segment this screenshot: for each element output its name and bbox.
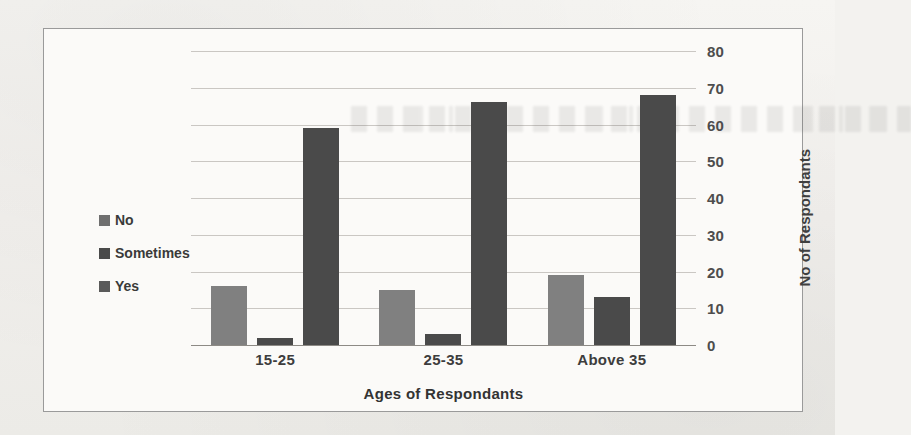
bar-yes-above-35[interactable]: [640, 95, 676, 345]
bar-sometimes-above-35[interactable]: [594, 297, 630, 345]
legend-swatch-yes: [99, 281, 110, 292]
legend-label-yes: Yes: [115, 278, 139, 294]
legend-item-no[interactable]: No: [99, 212, 190, 228]
legend-item-sometimes[interactable]: Sometimes: [99, 245, 190, 261]
axis-baseline: [191, 345, 696, 346]
bar-group: [359, 51, 527, 345]
x-axis-title: Ages of Respondants: [191, 385, 696, 402]
legend-label-sometimes: Sometimes: [115, 245, 190, 261]
y-tick-label: 80: [707, 43, 747, 60]
y-tick-label: 70: [707, 79, 747, 96]
y-axis-title: No of Respondants: [796, 149, 813, 287]
y-tick-label: 0: [707, 337, 747, 354]
x-category-label: Above 35: [532, 351, 692, 368]
legend-item-yes[interactable]: Yes: [99, 278, 190, 294]
bar-yes-15-25[interactable]: [303, 128, 339, 345]
bar-no-above-35[interactable]: [548, 275, 584, 345]
x-category-label: 25-35: [364, 351, 524, 368]
chart-legend: No Sometimes Yes: [99, 212, 190, 311]
y-tick-label: 60: [707, 116, 747, 133]
y-tick-label: 20: [707, 263, 747, 280]
bar-sometimes-15-25[interactable]: [257, 338, 293, 345]
bar-no-15-25[interactable]: [211, 286, 247, 345]
legend-swatch-no: [99, 215, 110, 226]
x-category-label: 15-25: [195, 351, 355, 368]
plot-area: 01020304050607080 15-2525-35Above 35 Age…: [191, 51, 696, 345]
bar-group: [191, 51, 359, 345]
legend-swatch-sometimes: [99, 248, 110, 259]
bar-yes-25-35[interactable]: [471, 102, 507, 345]
y-tick-label: 10: [707, 300, 747, 317]
chart-frame: No Sometimes Yes 01020304050607080 15-25…: [43, 28, 803, 412]
y-tick-label: 50: [707, 153, 747, 170]
legend-label-no: No: [115, 212, 134, 228]
y-tick-label: 40: [707, 190, 747, 207]
y-tick-label: 30: [707, 226, 747, 243]
bar-group: [528, 51, 696, 345]
bar-no-25-35[interactable]: [379, 290, 415, 345]
bar-sometimes-25-35[interactable]: [425, 334, 461, 345]
